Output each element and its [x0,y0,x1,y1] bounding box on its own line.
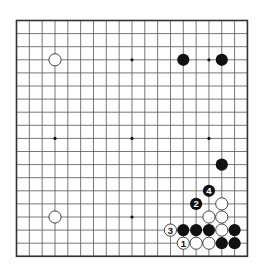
black-stone[interactable] [229,237,241,249]
black-stone[interactable] [229,224,241,236]
move-number-label: 1 [181,238,187,249]
black-stone[interactable] [216,237,228,249]
move-number-label: 3 [168,225,173,236]
stone-circle [177,54,189,66]
move-number-label: 2 [193,198,198,209]
black-stone[interactable] [216,159,228,171]
stone-circle [216,159,228,171]
white-stone[interactable]: 1 [177,237,189,249]
stone-circle [229,237,241,249]
white-stone[interactable] [216,198,228,210]
white-stone[interactable]: 3 [164,224,176,236]
white-stone[interactable] [216,224,228,236]
stone-circle [216,54,228,66]
black-stone[interactable] [190,224,202,236]
stone-circle [216,198,228,210]
black-stone[interactable] [177,54,189,66]
white-stone[interactable] [203,211,215,223]
star-point [130,58,133,61]
black-stone[interactable]: 2 [190,198,202,210]
white-stone[interactable] [216,211,228,223]
stone-circle [49,211,61,223]
move-number-label: 4 [206,185,212,196]
black-stone[interactable]: 4 [203,185,215,197]
black-stone[interactable] [216,54,228,66]
white-stone[interactable] [49,54,61,66]
star-point [207,58,210,61]
white-stone[interactable] [190,237,202,249]
stone-circle [216,237,228,249]
stone-circle [203,224,215,236]
stone-circle [49,54,61,66]
go-board[interactable]: 4231 [0,0,262,272]
star-point [207,137,210,140]
star-point [53,137,56,140]
white-stone[interactable] [203,237,215,249]
stone-circle [216,224,228,236]
stone-circle [203,237,215,249]
stone-circle [229,224,241,236]
star-point [130,215,133,218]
star-point [130,137,133,140]
black-stone[interactable] [203,224,215,236]
black-stone[interactable] [177,224,189,236]
stone-circle [190,224,202,236]
stone-circle [177,224,189,236]
white-stone[interactable] [49,211,61,223]
stone-circle [216,211,228,223]
stone-circle [190,237,202,249]
stone-circle [203,211,215,223]
